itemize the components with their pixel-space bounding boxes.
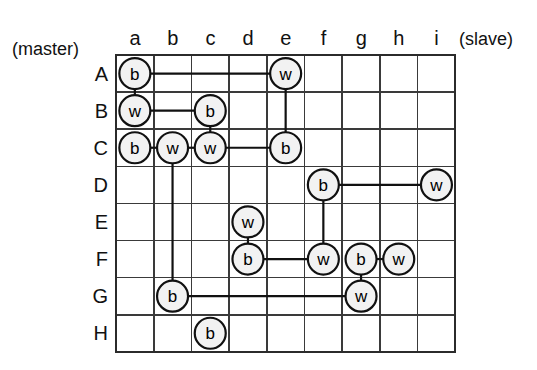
node-Ce[interactable]: b	[270, 132, 301, 163]
node-label: w	[429, 176, 443, 195]
node-label: w	[354, 287, 368, 306]
node-Ca[interactable]: b	[119, 132, 150, 163]
node-label: b	[281, 139, 290, 158]
node-Aa[interactable]: b	[119, 58, 150, 89]
node-Hc[interactable]: b	[195, 318, 226, 349]
node-label: w	[392, 250, 406, 269]
node-label: b	[130, 65, 139, 84]
node-label: b	[168, 287, 177, 306]
node-Cb[interactable]: w	[157, 132, 188, 163]
connection-board[interactable]: bwwbbwwbbwwbwbwbwb	[0, 0, 537, 370]
node-label: w	[165, 139, 179, 158]
node-label: w	[203, 139, 217, 158]
connection-links	[135, 74, 421, 297]
node-label: b	[206, 102, 215, 121]
node-label: b	[356, 250, 365, 269]
node-Gg[interactable]: w	[346, 281, 377, 312]
node-Gb[interactable]: b	[157, 281, 188, 312]
node-Ae[interactable]: w	[270, 58, 301, 89]
node-Ba[interactable]: w	[119, 95, 150, 126]
node-label: b	[243, 250, 252, 269]
node-Di[interactable]: w	[421, 169, 452, 200]
node-label: w	[128, 102, 142, 121]
node-Fg[interactable]: b	[346, 244, 377, 275]
node-Bc[interactable]: b	[195, 95, 226, 126]
node-label: b	[130, 139, 139, 158]
node-label: b	[319, 176, 328, 195]
node-label: w	[279, 65, 293, 84]
figure-canvas: (master) (slave) abcdefghi ABCDEFGH bwwb…	[0, 0, 537, 370]
node-Cc[interactable]: w	[195, 132, 226, 163]
node-Fh[interactable]: w	[383, 244, 414, 275]
node-label: w	[241, 213, 255, 232]
node-Ff[interactable]: w	[308, 244, 339, 275]
node-label: b	[206, 324, 215, 343]
node-Ed[interactable]: w	[232, 206, 263, 237]
node-label: w	[316, 250, 330, 269]
node-Df[interactable]: b	[308, 169, 339, 200]
node-Fd[interactable]: b	[232, 244, 263, 275]
